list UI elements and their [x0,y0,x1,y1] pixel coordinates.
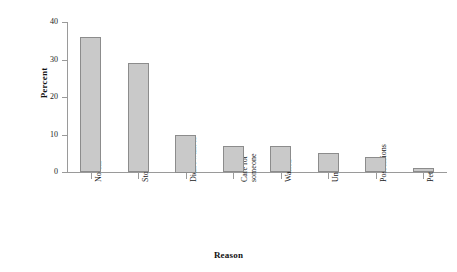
bar [270,146,291,172]
y-axis-tick-label: 30 [34,55,58,64]
bar-chart: Percent 010203040 No carStorm not badDid… [0,0,457,272]
x-axis-title: Reason [0,250,457,260]
bar [80,37,101,172]
x-axis-tick [281,173,282,179]
y-axis-tick [62,97,68,98]
bar [318,153,339,172]
bar [365,157,386,172]
x-axis-tick [91,173,92,179]
y-axis-tick [62,172,68,173]
y-axis-tick [62,135,68,136]
bar [128,63,149,172]
y-axis-tick [62,22,68,23]
y-axis-tick-label: 0 [34,167,58,176]
x-axis-tick [376,173,377,179]
y-axis-tick-label: 10 [34,130,58,139]
bar [413,168,434,172]
x-axis-tick [423,173,424,179]
y-axis-tick-label: 20 [34,92,58,101]
bar [223,146,244,172]
x-axis-tick [138,173,139,179]
x-axis-tick-label: Pet [427,172,436,182]
y-axis-tick-label: 40 [34,17,58,26]
x-axis-tick [328,173,329,179]
y-axis-tick [62,60,68,61]
bar [175,135,196,173]
x-axis-tick [233,173,234,179]
x-axis-tick [186,173,187,179]
